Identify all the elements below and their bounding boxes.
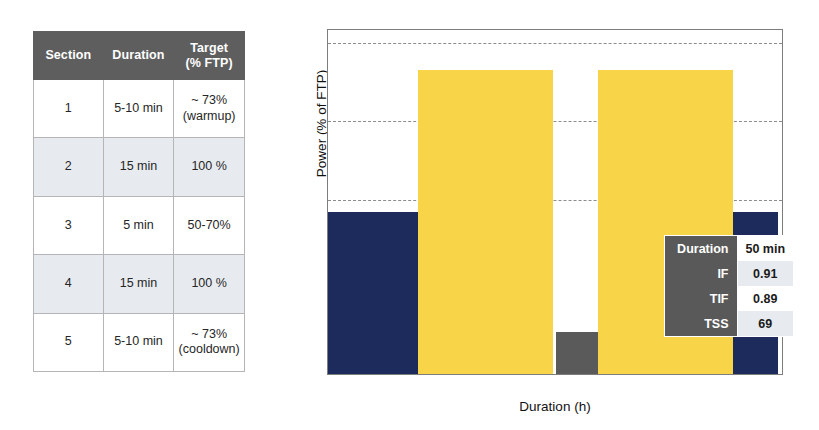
metrics-key: TIF — [665, 286, 737, 311]
table-header: Section Duration Target (% FTP) — [34, 32, 245, 80]
table-row: 3 5 min 50-70% — [34, 196, 245, 254]
table-row: 5 5-10 min ~ 73% (cooldown) — [34, 313, 245, 371]
cell-target-value: ~ 73% — [191, 327, 227, 341]
metrics-value: 0.89 — [737, 286, 793, 311]
cell-target-value: 50-70% — [188, 218, 231, 232]
metrics-key: TSS — [665, 311, 737, 336]
metrics-row: TSS 69 — [665, 311, 793, 336]
metrics-row: IF 0.91 — [665, 261, 793, 286]
table-row: 4 15 min 100 % — [34, 255, 245, 313]
metrics-row: Duration 50 min — [665, 236, 793, 261]
x-tick-label-0.5: 0.5 — [588, 374, 607, 375]
gridline-105 — [328, 43, 782, 44]
cell-target: 100 % — [174, 255, 245, 313]
power-duration-bar-chart: Power (% of FTP) 5060708090100 0.00.10.2… — [265, 0, 819, 430]
cell-target-value: 100 % — [191, 159, 226, 173]
cell-target-note: (warmup) — [174, 109, 244, 125]
metrics-row: TIF 0.89 — [665, 286, 793, 311]
x-tick-label-0.6: 0.6 — [642, 374, 661, 375]
x-tick-label-0.1: 0.1 — [373, 374, 392, 375]
metrics-value: 69 — [737, 311, 793, 336]
bar-2 — [418, 70, 553, 374]
table-header-row: Section Duration Target (% FTP) — [34, 32, 245, 80]
table-row: 2 15 min 100 % — [34, 138, 245, 196]
cell-target-note: (cooldown) — [174, 342, 244, 358]
cell-target: 50-70% — [174, 196, 245, 254]
x-tick-label-0.8: 0.8 — [750, 374, 769, 375]
cell-duration: 5 min — [103, 196, 174, 254]
cell-section: 4 — [34, 255, 104, 313]
metrics-value: 0.91 — [737, 261, 793, 286]
column-header-target: Target (% FTP) — [174, 32, 245, 80]
column-header-section-label: Section — [45, 48, 91, 62]
bar-3 — [556, 332, 598, 374]
cell-target: 100 % — [174, 138, 245, 196]
cell-duration: 15 min — [103, 138, 174, 196]
metrics-summary-inset: Duration 50 min IF 0.91 TIF 0.89 TSS 69 — [665, 236, 793, 336]
metrics-inset-body: Duration 50 min IF 0.91 TIF 0.89 TSS 69 — [665, 236, 793, 336]
column-header-target-sublabel: (% FTP) — [174, 56, 244, 71]
metrics-key: IF — [665, 261, 737, 286]
cell-section: 5 — [34, 313, 104, 371]
table-row: 1 5-10 min ~ 73% (warmup) — [34, 80, 245, 138]
column-header-target-label: Target — [190, 41, 228, 55]
workout-section-table: Section Duration Target (% FTP) 1 5-10 m… — [33, 31, 245, 372]
cell-target: ~ 73% (cooldown) — [174, 313, 245, 371]
cell-section: 2 — [34, 138, 104, 196]
bar-1 — [328, 212, 418, 375]
x-tick-label-0.3: 0.3 — [481, 374, 500, 375]
metrics-value: 50 min — [737, 236, 793, 261]
column-header-duration-label: Duration — [112, 48, 164, 62]
x-tick-label-0.7: 0.7 — [696, 374, 715, 375]
x-tick-label-0.0: 0.0 — [327, 374, 337, 375]
cell-section: 3 — [34, 196, 104, 254]
cell-target-value: 100 % — [191, 276, 226, 290]
column-header-duration: Duration — [103, 32, 174, 80]
x-tick-label-0.2: 0.2 — [427, 374, 446, 375]
table-body: 1 5-10 min ~ 73% (warmup) 2 15 min 100 %… — [34, 80, 245, 372]
cell-duration: 5-10 min — [103, 80, 174, 138]
cell-duration: 15 min — [103, 255, 174, 313]
x-tick-label-0.4: 0.4 — [534, 374, 553, 375]
cell-target: ~ 73% (warmup) — [174, 80, 245, 138]
cell-section: 1 — [34, 80, 104, 138]
metrics-key: Duration — [665, 236, 737, 261]
x-axis-title: Duration (h) — [327, 399, 783, 414]
cell-duration: 5-10 min — [103, 313, 174, 371]
column-header-section: Section — [34, 32, 104, 80]
cell-target-value: ~ 73% — [191, 93, 227, 107]
